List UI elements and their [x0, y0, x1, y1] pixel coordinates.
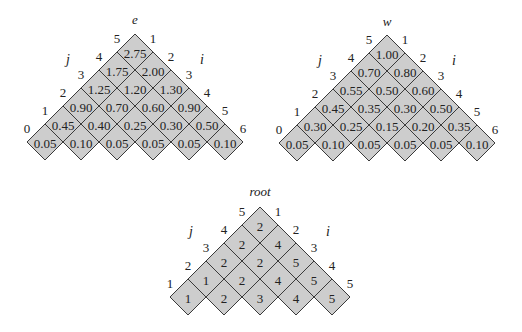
cell-value: 0.05 [394, 137, 417, 152]
cell-value: 1 [185, 291, 192, 306]
cell-value: 4 [275, 273, 282, 288]
cell-value: 0.05 [430, 137, 453, 152]
left-index-label: 0 [276, 122, 283, 137]
grid-root: rootji2242251245123451234512345 [167, 184, 354, 316]
cell-value: 0.55 [340, 83, 363, 98]
right-index-label: 3 [186, 67, 193, 82]
cell-value: 2 [239, 237, 246, 252]
right-index-label: 5 [222, 103, 229, 118]
cell-value: 0.05 [106, 136, 129, 151]
axis-label-j: j [316, 53, 322, 68]
left-index-label: 2 [60, 85, 67, 100]
right-index-label: 2 [293, 222, 300, 237]
axis-label-j: j [64, 52, 70, 67]
cell-value: 0.60 [142, 100, 165, 115]
left-index-label: 4 [348, 50, 355, 65]
cell-value: 2 [257, 219, 264, 234]
right-index-label: 6 [492, 122, 499, 137]
cell-value: 4 [275, 237, 282, 252]
cell-value: 2.00 [142, 64, 165, 79]
right-index-label: 2 [420, 50, 427, 65]
cell-value: 0.90 [70, 100, 93, 115]
optimal-bst-tables-diagram: eji2.751.752.001.251.201.300.900.700.600… [0, 0, 522, 332]
cell-value: 0.60 [412, 83, 435, 98]
cell-value: 0.70 [106, 100, 129, 115]
cell-value: 1.25 [88, 82, 111, 97]
cell-value: 0.05 [286, 137, 309, 152]
cell-value: 0.10 [322, 137, 345, 152]
cell-value: 0.50 [196, 118, 219, 133]
cell-value: 0.15 [376, 119, 399, 134]
left-index-label: 3 [78, 67, 85, 82]
left-index-label: 1 [167, 276, 174, 291]
axis-label-i: i [200, 52, 204, 67]
left-index-label: 4 [96, 49, 103, 64]
cell-value: 5 [329, 291, 336, 306]
left-index-label: 3 [203, 240, 210, 255]
cell-value: 0.05 [178, 136, 201, 151]
cell-value: 0.05 [142, 136, 165, 151]
cell-value: 2 [221, 255, 228, 270]
axis-label-i: i [452, 53, 456, 68]
cell-value: 0.70 [358, 65, 381, 80]
cell-value: 0.30 [304, 119, 327, 134]
right-index-label: 1 [150, 31, 157, 46]
left-index-label: 1 [42, 103, 49, 118]
cell-value: 3 [257, 291, 264, 306]
left-index-label: 2 [312, 86, 319, 101]
cell-value: 0.10 [70, 136, 93, 151]
right-index-label: 5 [474, 104, 481, 119]
cell-value: 0.90 [178, 100, 201, 115]
cell-value: 2.75 [124, 46, 147, 61]
cell-value: 0.30 [394, 101, 417, 116]
right-index-label: 3 [311, 240, 318, 255]
cell-value: 5 [293, 255, 300, 270]
cell-value: 1.00 [376, 47, 399, 62]
right-index-label: 1 [275, 204, 282, 219]
cell-value: 0.50 [376, 83, 399, 98]
cell-value: 1.30 [160, 82, 183, 97]
grid-e: eji2.751.752.001.251.201.300.900.700.600… [24, 12, 247, 161]
right-index-label: 1 [402, 32, 409, 47]
left-index-label: 5 [239, 204, 246, 219]
right-index-label: 4 [329, 258, 336, 273]
right-index-label: 4 [204, 85, 211, 100]
grid-w: wji1.000.700.800.550.500.600.450.350.300… [276, 14, 499, 162]
cell-value: 0.35 [358, 101, 381, 116]
cell-value: 5 [311, 273, 318, 288]
left-index-label: 2 [185, 258, 192, 273]
cell-value: 2 [257, 255, 264, 270]
cell-value: 0.25 [124, 118, 147, 133]
cell-value: 0.10 [214, 136, 237, 151]
cell-value: 0.10 [466, 137, 489, 152]
grid-title: e [132, 12, 138, 27]
cell-value: 1.75 [106, 64, 129, 79]
left-index-label: 5 [114, 31, 121, 46]
grid-title: root [249, 184, 271, 199]
left-index-label: 0 [24, 121, 31, 136]
cell-value: 0.40 [88, 118, 111, 133]
cell-value: 0.50 [430, 101, 453, 116]
left-index-label: 1 [294, 104, 301, 119]
left-index-label: 5 [366, 32, 373, 47]
cell-value: 1 [203, 273, 210, 288]
grid-title: w [383, 14, 392, 29]
cell-value: 4 [293, 291, 300, 306]
cell-value: 2 [221, 291, 228, 306]
cell-value: 0.20 [412, 119, 435, 134]
cell-value: 0.05 [34, 136, 57, 151]
cell-value: 1.20 [124, 82, 147, 97]
cell-value: 0.25 [340, 119, 363, 134]
cell-value: 2 [239, 273, 246, 288]
axis-label-i: i [326, 224, 330, 239]
cell-value: 0.05 [358, 137, 381, 152]
cell-value: 0.35 [448, 119, 471, 134]
right-index-label: 3 [438, 68, 445, 83]
right-index-label: 6 [240, 121, 247, 136]
cell-value: 0.45 [322, 101, 345, 116]
cell-value: 0.80 [394, 65, 417, 80]
cell-value: 0.30 [160, 118, 183, 133]
left-index-label: 3 [330, 68, 337, 83]
axis-label-j: j [187, 224, 193, 239]
left-index-label: 4 [221, 222, 228, 237]
